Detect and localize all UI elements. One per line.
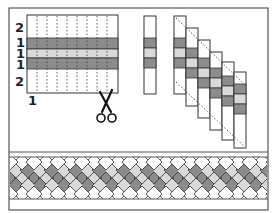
stair-strip (186, 28, 198, 106)
stair-strip (198, 40, 210, 118)
band-light (27, 49, 118, 58)
row-label: 2 (15, 20, 24, 35)
row-label: 2 (15, 74, 24, 89)
width-label: 1 (28, 93, 37, 108)
stair-strip (222, 62, 234, 140)
band-dark-2 (27, 58, 118, 69)
single-strip (144, 16, 156, 94)
band-dark-1 (27, 38, 118, 49)
braid-band (9, 157, 268, 199)
braid-diagram: 2 1 1 1 2 1 (0, 0, 278, 213)
row-label: 1 (16, 57, 25, 72)
stair-strip (234, 72, 246, 148)
strip-set (27, 15, 118, 93)
stair-strip (210, 52, 222, 130)
